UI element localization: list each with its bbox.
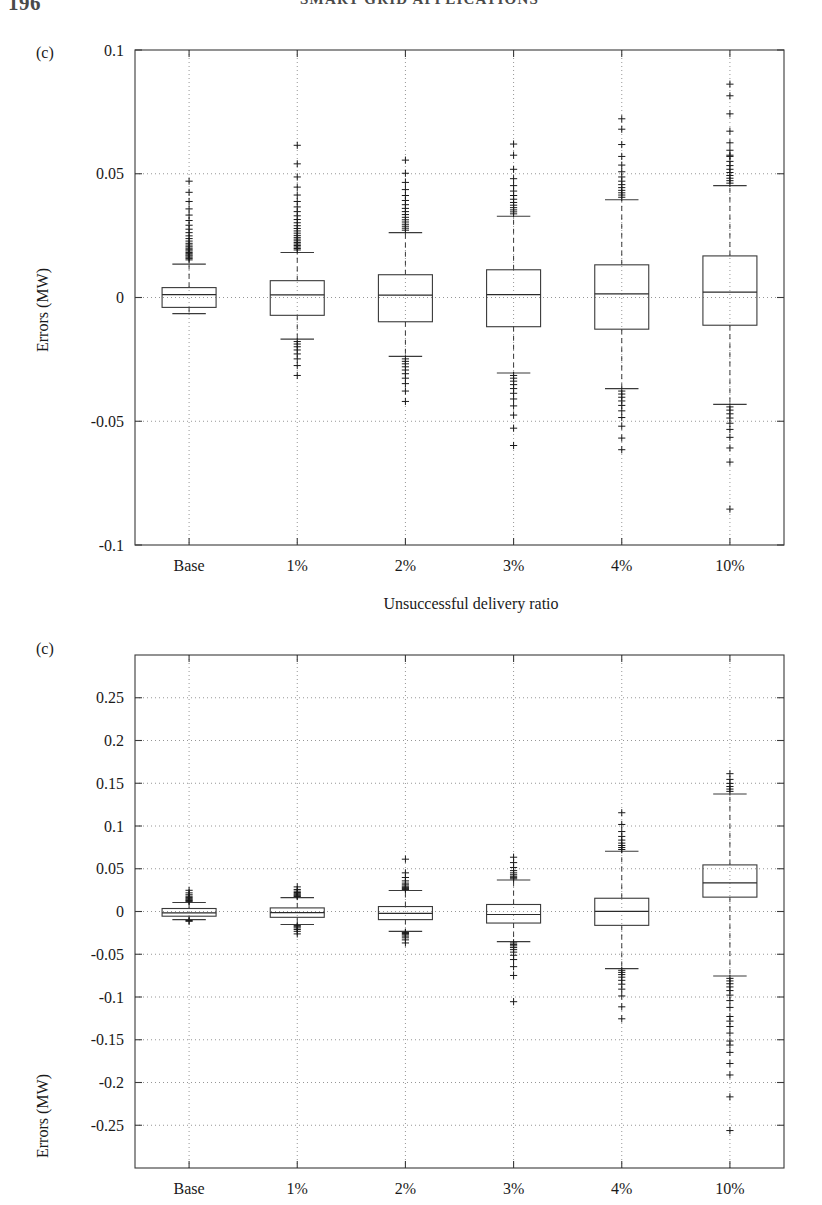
y-tick-label: 0.2 (104, 732, 124, 749)
x-category-label: 4% (611, 557, 632, 574)
boxplot-group (378, 157, 432, 406)
x-axis-label: Unsuccessful delivery ratio (60, 595, 822, 613)
y-tick-label: -0.1 (99, 537, 124, 554)
x-category-label: 1% (287, 557, 308, 574)
boxplot-chart-top: 0.10.050-0.05-0.1Base1%2%3%4%10% (0, 22, 822, 622)
x-category-label: 3% (503, 1180, 524, 1197)
boxplot-group (162, 178, 216, 314)
x-category-label: 1% (287, 1180, 308, 1197)
page-running-header: 196 SMART GRID APPLICATIONS (0, 0, 822, 12)
boxplot-group (487, 854, 541, 1006)
x-category-label: 10% (715, 557, 744, 574)
y-tick-label: 0.1 (104, 818, 124, 835)
x-category-label: 2% (395, 1180, 416, 1197)
y-tick-label: -0.2 (99, 1074, 124, 1091)
x-category-label: 4% (611, 1180, 632, 1197)
figure-panel-c-bottom: (c) Errors (MW) 0.250.20.150.10.050-0.05… (0, 628, 822, 1205)
boxplot-group (162, 887, 216, 925)
y-tick-label: 0 (116, 289, 124, 306)
y-tick-label: -0.25 (91, 1117, 124, 1134)
boxplot-group (595, 115, 649, 453)
x-category-label: 10% (715, 1180, 744, 1197)
y-tick-label: 0.05 (96, 165, 124, 182)
boxplot-group (703, 81, 757, 513)
boxplot-group (487, 140, 541, 449)
y-tick-label: -0.05 (91, 946, 124, 963)
y-tick-label: 0.25 (96, 689, 124, 706)
y-tick-label: -0.15 (91, 1031, 124, 1048)
x-category-label: Base (174, 1180, 205, 1197)
boxplot-chart-bottom: 0.250.20.150.10.050-0.05-0.1-0.15-0.2-0.… (0, 628, 822, 1198)
y-tick-label: 0 (116, 903, 124, 920)
figure-panel-c-top: (c) Errors (MW) 0.10.050-0.05-0.1Base1%2… (0, 22, 822, 622)
y-tick-label: 0.15 (96, 775, 124, 792)
boxplot-group (378, 856, 432, 947)
x-category-label: Base (174, 557, 205, 574)
boxplot-group (270, 142, 324, 379)
y-tick-label: -0.1 (99, 989, 124, 1006)
y-tick-label: 0.1 (104, 42, 124, 59)
x-category-label: 3% (503, 557, 524, 574)
page-number: 196 (8, 0, 41, 12)
y-tick-label: -0.05 (91, 413, 124, 430)
y-tick-label: 0.05 (96, 860, 124, 877)
boxplot-group (270, 883, 324, 937)
x-category-label: 2% (395, 557, 416, 574)
running-head-title: SMART GRID APPLICATIONS (300, 0, 539, 8)
